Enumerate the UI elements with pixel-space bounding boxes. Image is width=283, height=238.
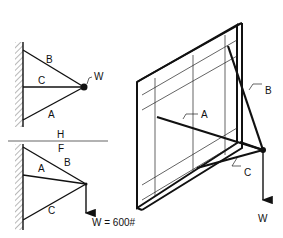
label-a: A bbox=[201, 109, 208, 120]
wall-panel-face bbox=[137, 25, 237, 208]
grid-line bbox=[142, 143, 237, 200]
label-b: B bbox=[265, 85, 272, 96]
member-c bbox=[197, 150, 263, 168]
wall-panel-bottom-edge bbox=[137, 208, 142, 210]
label-c: C bbox=[244, 167, 251, 178]
label-b: B bbox=[64, 157, 71, 168]
member-b bbox=[23, 147, 86, 184]
joint-node bbox=[81, 84, 88, 91]
truss-figure: B C A W H F B A C W = 600# bbox=[0, 0, 283, 238]
label-w: W bbox=[258, 213, 268, 224]
leader-a bbox=[183, 114, 198, 119]
wall-panel-top-edge bbox=[137, 23, 242, 82]
member-c-upper bbox=[240, 142, 263, 150]
label-a: A bbox=[38, 163, 45, 174]
label-h: H bbox=[57, 129, 64, 140]
top-left-diagram: B C A W bbox=[15, 42, 104, 127]
label-w-600: W = 600# bbox=[92, 217, 136, 228]
label-f: F bbox=[58, 143, 64, 154]
label-c: C bbox=[38, 75, 45, 86]
label-b: B bbox=[46, 54, 53, 65]
bottom-left-diagram: B A C W = 600# bbox=[15, 144, 136, 230]
grid-line bbox=[142, 56, 237, 110]
member-b bbox=[228, 46, 263, 150]
leader-b bbox=[249, 84, 262, 90]
label-w: W bbox=[94, 71, 104, 82]
wall-hatching bbox=[15, 144, 23, 230]
member-b bbox=[23, 50, 84, 87]
isometric-diagram: A B C W bbox=[137, 23, 272, 224]
grid-line bbox=[142, 40, 237, 95]
member-a bbox=[23, 175, 86, 184]
label-a: A bbox=[48, 109, 55, 120]
label-c: C bbox=[48, 205, 55, 216]
leader-line bbox=[87, 77, 92, 84]
wall-hatching bbox=[15, 42, 23, 127]
